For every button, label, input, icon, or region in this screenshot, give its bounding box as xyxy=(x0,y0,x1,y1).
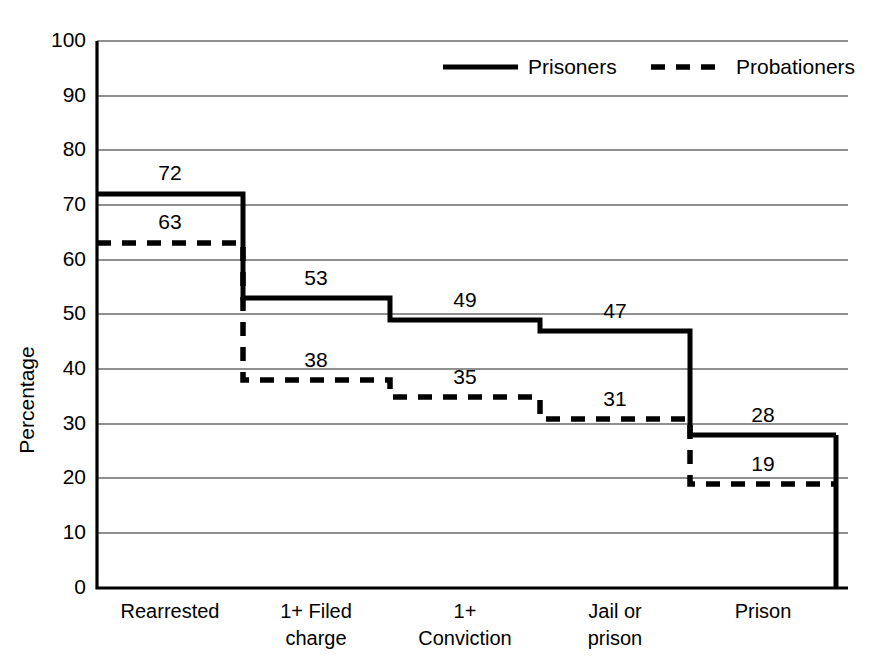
y-tick-60: 60 xyxy=(63,247,86,270)
cat-label-filed-charge-line-0: 1+ Filed xyxy=(280,600,352,622)
y-axis-title: Percentage xyxy=(15,346,38,453)
cat-label-jail-or-prison-line-1: prison xyxy=(588,627,642,649)
cat-label-conviction-line-1: Conviction xyxy=(418,627,511,649)
y-tick-10: 10 xyxy=(63,520,86,543)
legend-label-prisoners: Prisoners xyxy=(528,55,617,78)
x-axis-category-labels: Rearrested 1+ Filed charge 1+ Conviction… xyxy=(121,600,792,649)
value-label-probationers-2: 35 xyxy=(453,365,476,388)
cat-label-filed-charge-line-1: charge xyxy=(285,627,346,649)
value-label-prisoners-3: 47 xyxy=(603,299,626,322)
cat-label-conviction-line-0: 1+ xyxy=(454,600,477,622)
y-tick-40: 40 xyxy=(63,356,86,379)
y-axis-tick-labels: 100 90 80 70 60 50 40 30 20 10 0 xyxy=(51,28,86,598)
cat-label-jail-or-prison-line-0: Jail or xyxy=(588,600,642,622)
y-tick-30: 30 xyxy=(63,411,86,434)
series-line-probationers xyxy=(97,243,836,484)
step-chart: 100 90 80 70 60 50 40 30 20 10 0 Percent… xyxy=(0,0,874,668)
value-label-prisoners-4: 28 xyxy=(751,403,774,426)
y-tick-100: 100 xyxy=(51,28,86,51)
cat-label-rearrested-line-0: Rearrested xyxy=(121,600,220,622)
y-tick-80: 80 xyxy=(63,137,86,160)
value-label-prisoners-1: 53 xyxy=(304,266,327,289)
value-labels-probationers: 63 38 35 31 19 xyxy=(158,210,774,475)
value-label-prisoners-0: 72 xyxy=(158,161,181,184)
legend-label-probationers: Probationers xyxy=(736,55,855,78)
gridlines xyxy=(97,41,848,588)
y-tick-20: 20 xyxy=(63,465,86,488)
cat-label-prison-line-0: Prison xyxy=(735,600,792,622)
value-label-probationers-1: 38 xyxy=(304,348,327,371)
y-tick-0: 0 xyxy=(74,575,86,598)
chart-container: 100 90 80 70 60 50 40 30 20 10 0 Percent… xyxy=(0,0,874,668)
y-tick-50: 50 xyxy=(63,301,86,324)
legend: Prisoners Probationers xyxy=(443,55,855,78)
y-tick-90: 90 xyxy=(63,83,86,106)
value-label-probationers-3: 31 xyxy=(603,387,626,410)
y-tick-70: 70 xyxy=(63,192,86,215)
value-label-prisoners-2: 49 xyxy=(453,288,476,311)
value-label-probationers-0: 63 xyxy=(158,210,181,233)
value-label-probationers-4: 19 xyxy=(751,452,774,475)
